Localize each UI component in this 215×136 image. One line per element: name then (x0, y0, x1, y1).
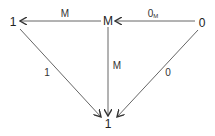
arrow-right-to-bottom (117, 30, 198, 117)
edge-label-right-bottom: 0 (165, 68, 171, 78)
node-mid: M (103, 15, 113, 27)
node-bottom: 1 (105, 118, 112, 130)
node-left: 1 (10, 16, 17, 28)
arrow-left-to-bottom (20, 29, 101, 117)
edge-label-right-mid: 0M (148, 9, 159, 19)
node-right: 0 (199, 17, 206, 29)
edge-label-mid-bottom: M (113, 61, 121, 71)
edge-label-left-bottom: 1 (44, 68, 50, 78)
edge-label-right-mid-sub: M (153, 13, 158, 19)
edge-label-mid-left: M (61, 9, 69, 19)
